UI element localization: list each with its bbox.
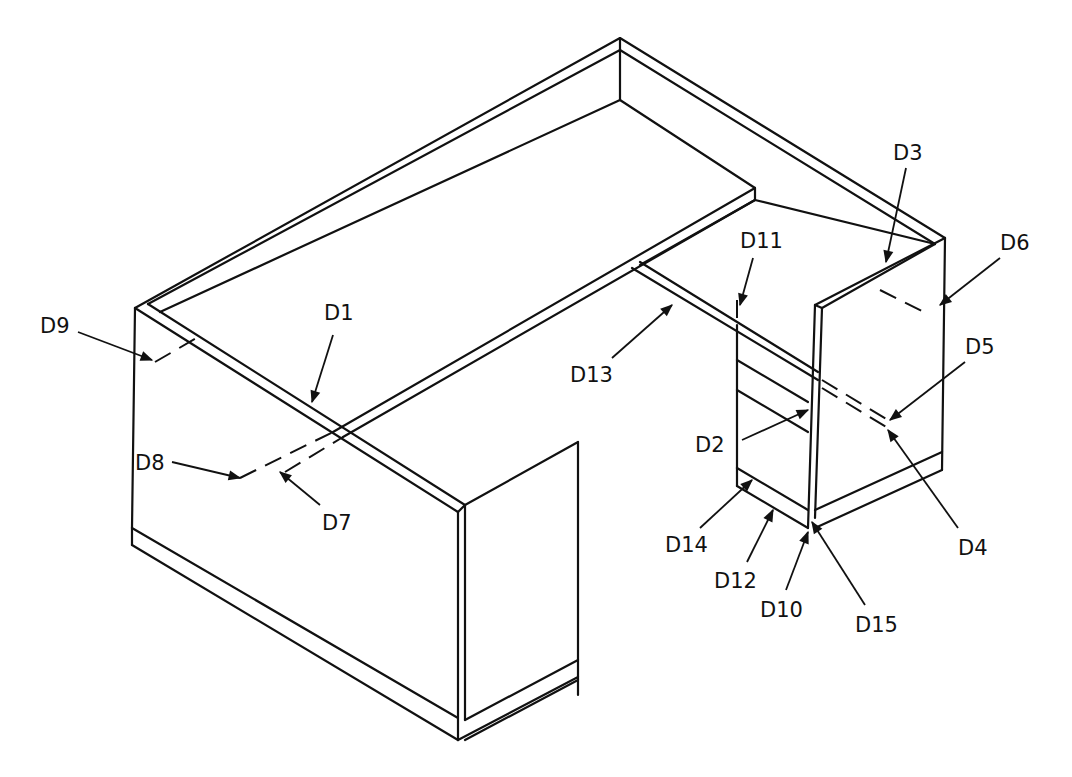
desk-diagram: D9 D1 D8 D7 D13 D11 D3 D6 D5 D2 D4 D14 D… <box>0 0 1072 777</box>
label-d4: D4 <box>958 536 988 560</box>
label-d3: D3 <box>893 141 923 165</box>
label-d5: D5 <box>965 335 995 359</box>
label-d1: D1 <box>324 301 354 325</box>
leader-lines <box>78 168 1000 605</box>
label-d2: D2 <box>695 433 725 457</box>
label-d10: D10 <box>760 598 803 622</box>
label-d9: D9 <box>40 314 70 338</box>
reference-labels: D9 D1 D8 D7 D13 D11 D3 D6 D5 D2 D4 D14 D… <box>40 141 1030 637</box>
label-d8: D8 <box>135 451 165 475</box>
label-d6: D6 <box>1000 231 1030 255</box>
label-d11: D11 <box>740 229 783 253</box>
label-d7: D7 <box>322 511 352 535</box>
label-d12: D12 <box>714 569 757 593</box>
label-d13: D13 <box>570 363 613 387</box>
label-d15: D15 <box>855 613 898 637</box>
label-d14: D14 <box>665 533 708 557</box>
